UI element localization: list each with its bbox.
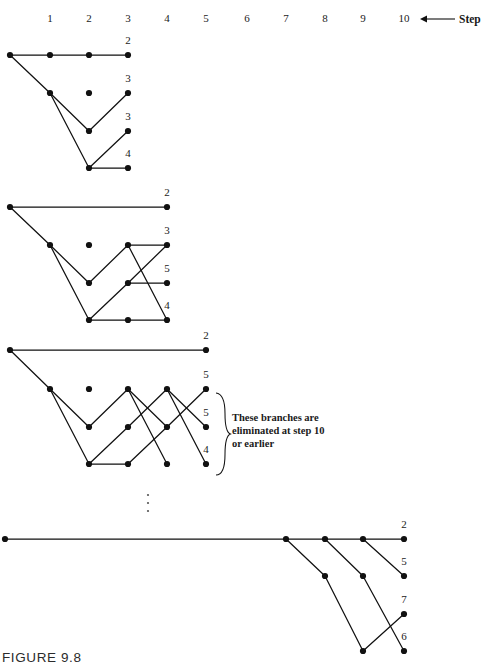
trellis-node bbox=[322, 573, 328, 579]
trellis-node bbox=[164, 204, 170, 210]
trellis-node bbox=[7, 347, 13, 353]
trellis-node bbox=[86, 242, 92, 248]
trellis-node bbox=[125, 90, 131, 96]
state-label: 3 bbox=[164, 224, 170, 236]
trellis-node bbox=[125, 280, 131, 286]
trellis-node bbox=[47, 90, 53, 96]
trellis-node bbox=[164, 461, 170, 467]
branch-edge bbox=[167, 389, 206, 464]
trellis-node bbox=[47, 386, 53, 392]
trellis-node bbox=[125, 424, 131, 430]
state-label: 2 bbox=[401, 518, 407, 530]
branch-edge bbox=[50, 93, 89, 131]
trellis-node bbox=[86, 386, 92, 392]
figure-caption: FIGURE 9.8 bbox=[2, 650, 82, 665]
state-label: 2 bbox=[203, 329, 209, 341]
step-axis: 12345678910Step bbox=[47, 12, 480, 26]
state-label: 3 bbox=[125, 72, 131, 84]
panel-1: 2334 bbox=[7, 34, 131, 171]
state-label: 5 bbox=[401, 555, 407, 567]
trellis-node bbox=[164, 242, 170, 248]
trellis-node bbox=[86, 52, 92, 58]
state-label: 2 bbox=[164, 186, 170, 198]
trellis-node bbox=[360, 536, 366, 542]
state-label: 7 bbox=[401, 593, 407, 605]
branch-edge bbox=[89, 93, 128, 131]
trellis-node bbox=[360, 648, 366, 654]
trellis-node bbox=[47, 52, 53, 58]
branch-edge bbox=[50, 93, 89, 168]
state-label: 5 bbox=[203, 406, 209, 418]
state-label: 6 bbox=[401, 630, 407, 642]
trellis-node bbox=[164, 386, 170, 392]
branch-edge bbox=[10, 55, 50, 93]
trellis-node bbox=[322, 536, 328, 542]
trellis-node bbox=[86, 424, 92, 430]
trellis-node bbox=[7, 204, 13, 210]
annotation-text-line: eliminated at step 10 bbox=[232, 425, 324, 436]
branch-edge bbox=[50, 389, 89, 427]
trellis-node bbox=[401, 573, 407, 579]
trellis-node bbox=[125, 461, 131, 467]
trellis-node bbox=[125, 242, 131, 248]
trellis-node bbox=[360, 573, 366, 579]
trellis-node bbox=[125, 386, 131, 392]
panel-2: 2354 bbox=[7, 186, 170, 323]
ellipsis-dot bbox=[147, 494, 149, 496]
trellis-panels: 2334235425542576 bbox=[2, 34, 407, 654]
branch-edge bbox=[50, 245, 89, 320]
state-label: 4 bbox=[164, 299, 170, 311]
trellis-node bbox=[164, 424, 170, 430]
state-label: 5 bbox=[203, 368, 209, 380]
branch-edge bbox=[89, 283, 128, 320]
branch-edge bbox=[89, 245, 128, 283]
step-tick-6: 6 bbox=[244, 12, 250, 24]
trellis-node bbox=[2, 536, 8, 542]
ellipsis-dot bbox=[147, 502, 149, 504]
annotation-text-line: These branches are bbox=[232, 412, 319, 423]
trellis-node bbox=[203, 461, 209, 467]
trellis-node bbox=[86, 128, 92, 134]
branch-edge bbox=[50, 389, 89, 464]
trellis-node bbox=[164, 280, 170, 286]
trellis-node bbox=[125, 52, 131, 58]
step-tick-1: 1 bbox=[47, 12, 53, 24]
branch-edge bbox=[325, 576, 363, 651]
trellis-node bbox=[203, 424, 209, 430]
panel-4: 2576 bbox=[2, 518, 407, 654]
state-label: 2 bbox=[125, 34, 131, 46]
step-tick-7: 7 bbox=[283, 12, 289, 24]
branch-edge bbox=[128, 427, 167, 464]
step-tick-9: 9 bbox=[360, 12, 366, 24]
state-label: 3 bbox=[125, 110, 131, 122]
trellis-node bbox=[86, 165, 92, 171]
step-tick-4: 4 bbox=[164, 12, 170, 24]
branch-edge bbox=[363, 539, 404, 576]
panel-3: 2554 bbox=[7, 329, 209, 467]
branch-edge bbox=[128, 389, 167, 464]
trellis-node bbox=[283, 536, 289, 542]
curly-brace bbox=[216, 393, 230, 475]
trellis-diagram: 12345678910Step 2334235425542576 These b… bbox=[0, 0, 500, 672]
state-label: 5 bbox=[164, 262, 170, 274]
branch-edge bbox=[50, 245, 89, 283]
trellis-node bbox=[401, 611, 407, 617]
branch-edge bbox=[10, 350, 50, 389]
trellis-node bbox=[125, 128, 131, 134]
branch-edge bbox=[363, 576, 404, 651]
trellis-node bbox=[125, 317, 131, 323]
step-tick-3: 3 bbox=[125, 12, 131, 24]
branch-edge bbox=[89, 427, 128, 464]
trellis-node bbox=[164, 317, 170, 323]
trellis-node bbox=[401, 648, 407, 654]
trellis-node bbox=[203, 347, 209, 353]
trellis-node bbox=[86, 280, 92, 286]
trellis-node bbox=[86, 90, 92, 96]
step-tick-2: 2 bbox=[86, 12, 92, 24]
trellis-node bbox=[7, 52, 13, 58]
trellis-node bbox=[47, 242, 53, 248]
step-axis-arrow-head bbox=[420, 16, 427, 23]
branch-edge bbox=[128, 245, 167, 283]
trellis-node bbox=[203, 386, 209, 392]
annotation-text-line: or earlier bbox=[232, 438, 274, 449]
